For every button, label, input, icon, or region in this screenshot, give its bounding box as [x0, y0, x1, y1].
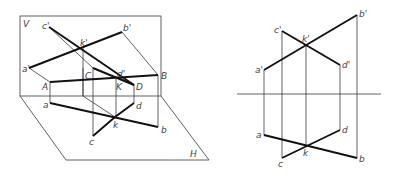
label-a1: a': [255, 65, 263, 75]
label-d: d: [342, 125, 348, 135]
label-B: B: [161, 71, 167, 81]
line-a1b1: [29, 32, 122, 68]
label-d: d: [136, 101, 142, 111]
label-K: K: [116, 82, 123, 92]
label-a: a: [43, 100, 49, 110]
projection-diagram: V H c' b' k' a' d' C B A K D a d k b c b…: [0, 0, 394, 179]
label-H: H: [190, 149, 197, 159]
label-b: b: [359, 154, 365, 164]
label-k: k: [113, 120, 119, 130]
label-c: c: [89, 137, 94, 147]
projector-a1-A: [29, 68, 50, 82]
label-b: b: [161, 125, 167, 135]
projector-b1-B: [122, 32, 158, 75]
label-C: C: [85, 71, 92, 81]
label-c1: c': [42, 21, 49, 31]
label-b1: b': [359, 9, 367, 19]
label-a1: a': [22, 64, 30, 74]
label-c: c: [278, 159, 283, 169]
label-D: D: [136, 82, 143, 92]
label-c1: c': [274, 25, 281, 35]
line-AB: [50, 75, 158, 82]
label-k: k: [303, 148, 309, 158]
line-cd: [282, 130, 340, 158]
pictorial-view: V H c' b' k' a' d' C B A K D a d k b c: [20, 16, 209, 160]
label-A: A: [41, 82, 48, 92]
label-d1: d': [117, 69, 125, 79]
label-b1: b': [123, 23, 131, 33]
label-a: a: [256, 130, 262, 140]
line-ab: [264, 135, 357, 158]
orthographic-view: b' c' k' a' d' a d k c b: [237, 9, 381, 169]
line-ab: [50, 103, 158, 127]
label-k1: k': [80, 38, 88, 48]
line-c1d1: [282, 31, 340, 65]
label-d1: d': [342, 60, 350, 70]
label-k1: k': [302, 34, 310, 44]
label-V: V: [23, 19, 30, 29]
